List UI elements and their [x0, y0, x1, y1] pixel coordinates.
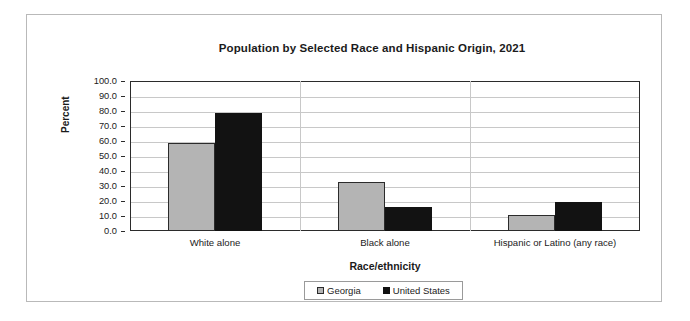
x-tick-label: Black alone	[300, 237, 470, 248]
legend-swatch-icon	[317, 287, 324, 294]
y-tick-label: 50.0	[99, 151, 117, 161]
y-tick-mark	[121, 171, 125, 172]
y-tick-mark	[121, 126, 125, 127]
x-tick-label: White alone	[130, 237, 300, 248]
y-tick-label: 30.0	[99, 181, 117, 191]
y-tick-label: 100.0	[94, 76, 117, 86]
y-tick-mark	[121, 111, 125, 112]
y-tick-mark	[121, 201, 125, 202]
y-tick-label: 20.0	[99, 196, 117, 206]
legend-item-united-states: United States	[383, 285, 450, 296]
bar-series-container	[130, 81, 640, 231]
y-tick-mark	[121, 186, 125, 187]
category-separator	[300, 81, 301, 231]
legend-item-georgia: Georgia	[317, 285, 361, 296]
y-axis-title: Percent	[60, 96, 71, 133]
bar-united-states-2	[555, 202, 602, 231]
y-tick-mark	[121, 156, 125, 157]
y-tick-mark	[121, 216, 125, 217]
y-tick-label: 60.0	[99, 136, 117, 146]
y-axis-tick-labels: 0.010.020.030.040.050.060.070.080.090.01…	[79, 73, 125, 239]
chart-legend: GeorgiaUnited States	[304, 281, 463, 300]
y-tick-mark	[121, 81, 125, 82]
y-tick-mark	[121, 141, 125, 142]
bar-united-states-1	[385, 207, 432, 231]
legend-label: Georgia	[327, 285, 361, 296]
bar-united-states-0	[215, 113, 262, 231]
y-tick-label: 0.0	[104, 226, 117, 236]
y-tick-mark	[121, 96, 125, 97]
y-tick-label: 90.0	[99, 91, 117, 101]
x-tick-label: Hispanic or Latino (any race)	[470, 237, 640, 248]
x-axis-title: Race/ethnicity	[130, 260, 640, 272]
legend-label: United States	[393, 285, 450, 296]
x-axis-tick-labels: White aloneBlack aloneHispanic or Latino…	[130, 237, 640, 253]
chart-frame: Population by Selected Race and Hispanic…	[26, 14, 662, 302]
bar-georgia-1	[338, 182, 385, 231]
y-tick-label: 10.0	[99, 211, 117, 221]
y-tick-label: 80.0	[99, 106, 117, 116]
bar-georgia-2	[508, 215, 555, 231]
y-tick-mark	[121, 231, 125, 232]
y-tick-label: 40.0	[99, 166, 117, 176]
y-tick-label: 70.0	[99, 121, 117, 131]
category-separator	[470, 81, 471, 231]
bar-georgia-0	[168, 143, 215, 232]
legend-swatch-icon	[383, 287, 390, 294]
chart-title: Population by Selected Race and Hispanic…	[27, 42, 690, 54]
